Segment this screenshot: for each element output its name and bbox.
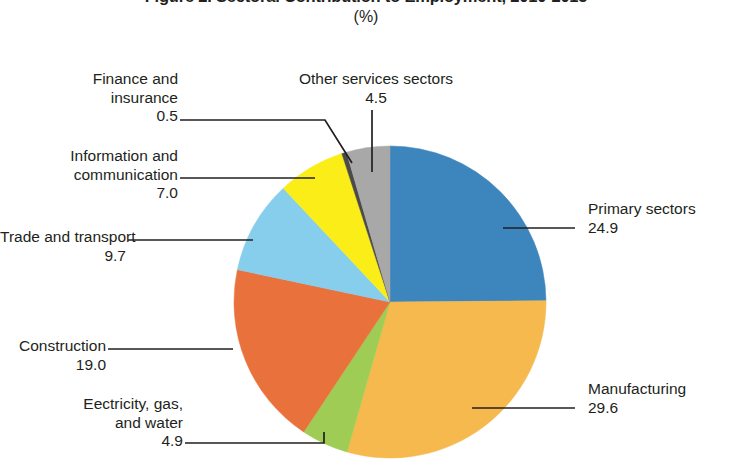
callout-electricity-gas-water: Eectricity, gas, and water 4.9 — [0, 395, 183, 451]
callout-manufacturing: Manufacturing 29.6 — [588, 380, 732, 417]
callout-manufacturing-label: Manufacturing — [588, 380, 732, 399]
callout-primary-sectors: Primary sectors 24.9 — [588, 200, 732, 237]
pie-slices-group — [234, 146, 546, 458]
callout-trade-transport-label: Trade and transport — [0, 228, 126, 247]
callout-trade-transport-value: 9.7 — [0, 247, 126, 266]
callout-finance-insurance-label-line1: Finance and — [0, 70, 178, 89]
callout-finance-insurance: Finance and insurance 0.5 — [0, 70, 178, 126]
leader-line-electricity-gas-water — [185, 432, 324, 443]
callout-primary-sectors-label: Primary sectors — [588, 200, 732, 219]
figure-container: Figure 2. Sectoral Contribution to Emplo… — [0, 0, 732, 464]
leader-line-finance-insurance — [180, 120, 352, 163]
callout-information-communication: Information and communication 7.0 — [0, 147, 178, 203]
callout-construction-value: 19.0 — [0, 356, 106, 375]
callout-information-communication-value: 7.0 — [0, 184, 178, 203]
callout-trade-transport: Trade and transport 9.7 — [0, 228, 126, 265]
callout-electricity-gas-water-value: 4.9 — [0, 432, 183, 451]
callout-information-communication-label-line2: communication — [0, 166, 178, 185]
callout-manufacturing-value: 29.6 — [588, 399, 732, 418]
callout-electricity-gas-water-label-line1: Eectricity, gas, — [0, 395, 183, 414]
callout-finance-insurance-label-line2: insurance — [0, 89, 178, 108]
callout-finance-insurance-value: 0.5 — [0, 107, 178, 126]
callout-primary-sectors-value: 24.9 — [588, 219, 732, 238]
callout-other-services-value: 4.5 — [265, 89, 487, 108]
callout-other-services-label: Other services sectors — [265, 70, 487, 89]
callout-information-communication-label-line1: Information and — [0, 147, 178, 166]
callout-construction: Construction 19.0 — [0, 337, 106, 374]
pie-slice-primary-sectors — [390, 146, 546, 302]
callout-other-services: Other services sectors 4.5 — [265, 70, 487, 107]
callout-construction-label: Construction — [0, 337, 106, 356]
callout-electricity-gas-water-label-line2: and water — [0, 414, 183, 433]
